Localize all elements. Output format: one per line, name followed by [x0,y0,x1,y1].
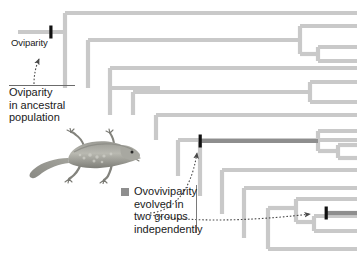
ovoviviparity-origin-upper-tick [199,135,202,148]
legend-swatch-ovoviviparity [121,188,129,196]
legend-line-4: independently [134,223,203,236]
oviparity-tick-label: Oviparity [11,37,48,48]
legend-ovoviviparity: Ovoviviparity evolved in two groups inde… [134,185,203,235]
figure-canvas: Oviparity Oviparity in ancestral populat… [0,0,361,258]
ancestral-note-line-3: population [9,111,65,124]
legend-line-2: evolved in [134,198,203,211]
legend-line-3: two groups [134,210,203,223]
ancestral-note: Oviparity in ancestral population [9,86,65,124]
arrow-to-oviparity-tick [34,59,39,84]
ancestral-note-line-1: Oviparity [9,86,65,99]
root-oviparity-tick [49,26,52,39]
legend-line-1: Ovoviviparity [134,185,203,198]
ancestral-note-line-2: in ancestral [9,99,65,112]
lizard-illustration [24,128,146,184]
ovoviviparity-origin-lower-tick [325,207,328,220]
